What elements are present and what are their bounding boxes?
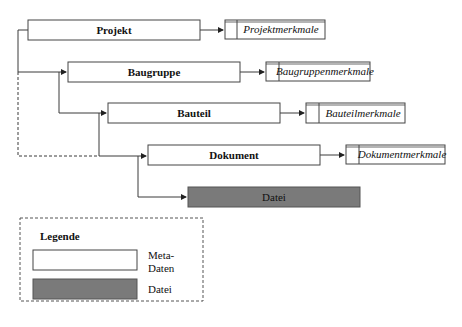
- node-bauteil: Bauteil: [108, 103, 280, 123]
- legend-label-file: Datei: [148, 283, 172, 295]
- node-baugruppe: Baugruppe: [68, 62, 240, 82]
- legend-label-meta-line2: Daten: [148, 262, 175, 274]
- node-dokument: Dokument: [148, 145, 320, 165]
- legend-swatch-file: [33, 279, 137, 299]
- legend-label-meta-line1: Meta-: [148, 249, 175, 261]
- attr-bauteilmerkmale: Bauteilmerkmale: [306, 103, 405, 123]
- node-dokument-label: Dokument: [209, 149, 259, 161]
- node-bauteil-label: Bauteil: [177, 107, 211, 119]
- node-projekt-label: Projekt: [96, 24, 132, 36]
- legend: Legende Meta- Daten Datei: [20, 218, 203, 301]
- node-projekt: Projekt: [28, 20, 200, 40]
- attr-bauteilmerkmale-label: Bauteilmerkmale: [325, 107, 400, 119]
- attr-baugruppenmerkmale: Baugruppenmerkmale: [266, 62, 374, 81]
- hierarchy-diagram: Projekt Projektmerkmale Baugruppe Baugru…: [0, 0, 462, 327]
- attr-projektmerkmale-label: Projektmerkmale: [242, 23, 318, 35]
- legend-swatch-meta: [33, 250, 137, 270]
- node-baugruppe-label: Baugruppe: [128, 66, 181, 78]
- node-datei-label: Datei: [262, 191, 286, 203]
- attr-baugruppenmerkmale-label: Baugruppenmerkmale: [276, 65, 374, 77]
- legend-title: Legende: [40, 230, 80, 242]
- attr-dokumentmerkmale-label: Dokumentmerkmale: [357, 148, 447, 160]
- node-datei: Datei: [188, 187, 360, 207]
- attr-dokumentmerkmale: Dokumentmerkmale: [346, 145, 446, 164]
- attr-projektmerkmale: Projektmerkmale: [225, 20, 325, 39]
